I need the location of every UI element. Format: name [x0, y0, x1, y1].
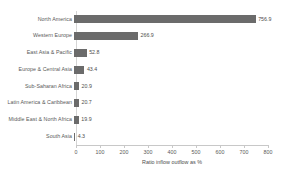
- bar: [74, 116, 79, 124]
- bar-value-label: 43.4: [87, 67, 97, 72]
- x-axis-tick-label: 800: [264, 150, 273, 155]
- bar-value-label: 266.9: [141, 33, 154, 38]
- x-axis-tick: [76, 145, 77, 148]
- category-label: Sub-Saharan Africa: [0, 84, 74, 89]
- x-axis-tick: [244, 145, 245, 148]
- bar: [74, 32, 138, 40]
- x-axis-tick: [148, 145, 149, 148]
- bar: [74, 15, 256, 23]
- category-label: East Asia & Pacific: [0, 50, 74, 55]
- x-axis-tick-label: 0: [75, 150, 78, 155]
- bar-value-label: 4.3: [78, 134, 85, 139]
- bar-row: Sub-Saharan Africa 20.9: [0, 78, 286, 95]
- bar-chart: North America 756.9 Western Europe 266.9…: [0, 0, 286, 174]
- bar-value-label: 19.9: [81, 117, 91, 122]
- bar-zone: 43.4: [74, 61, 266, 78]
- category-label: Latin America & Caribbean: [0, 100, 74, 105]
- x-axis-tick-label: 700: [240, 150, 249, 155]
- category-label: South Asia: [0, 134, 74, 139]
- bar: [74, 82, 79, 90]
- bar-zone: 266.9: [74, 28, 266, 45]
- x-axis-tick: [220, 145, 221, 148]
- plot-area: North America 756.9 Western Europe 266.9…: [0, 0, 286, 174]
- bar-zone: 19.9: [74, 112, 266, 129]
- bar-zone: 756.9: [74, 11, 266, 28]
- bar-value-label: 20.7: [81, 100, 91, 105]
- bar-row: Western Europe 266.9: [0, 28, 286, 45]
- x-axis-tick: [124, 145, 125, 148]
- x-axis-tick-label: 400: [168, 150, 177, 155]
- bar-zone: 52.8: [74, 45, 266, 62]
- bar-zone: 20.9: [74, 78, 266, 95]
- category-label: Western Europe: [0, 33, 74, 38]
- x-axis-tick-label: 500: [192, 150, 201, 155]
- category-label: Middle East & North Africa: [0, 117, 74, 122]
- x-axis-tick: [172, 145, 173, 148]
- bar-zone: 20.7: [74, 95, 266, 112]
- x-axis-tick-label: 200: [120, 150, 129, 155]
- x-axis-tick: [100, 145, 101, 148]
- bar-value-label: 52.8: [89, 50, 99, 55]
- bar: [74, 133, 75, 141]
- bar-value-label: 20.9: [82, 84, 92, 89]
- x-axis-tick-label: 300: [144, 150, 153, 155]
- bar-zone: 4.3: [74, 128, 266, 145]
- bar-row: Latin America & Caribbean 20.7: [0, 95, 286, 112]
- bar-row: Middle East & North Africa 19.9: [0, 112, 286, 129]
- bar-row: Europe & Central Asia 43.4: [0, 61, 286, 78]
- bar: [74, 66, 84, 74]
- bar-rows: North America 756.9 Western Europe 266.9…: [0, 11, 286, 145]
- bar-row: North America 756.9: [0, 11, 286, 28]
- bar: [74, 49, 87, 57]
- bar: [74, 99, 79, 107]
- category-label: North America: [0, 17, 74, 22]
- category-label: Europe & Central Asia: [0, 67, 74, 72]
- x-axis-title: Ratio inflow outflow as %: [76, 160, 268, 165]
- bar-row: East Asia & Pacific 52.8: [0, 45, 286, 62]
- x-axis-tick: [196, 145, 197, 148]
- bar-row: South Asia 4.3: [0, 128, 286, 145]
- x-axis-tick-label: 100: [96, 150, 105, 155]
- x-axis-tick: [268, 145, 269, 148]
- x-axis-tick-label: 600: [216, 150, 225, 155]
- bar-value-label: 756.9: [258, 17, 271, 22]
